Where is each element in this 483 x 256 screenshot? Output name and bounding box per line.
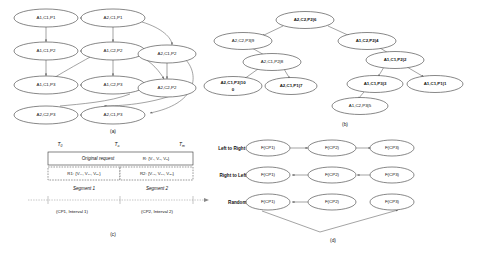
node-label: A2,C1,P1 [104, 15, 123, 20]
node-label: A1,C1,P2|2 [384, 57, 407, 62]
node-b-root[interactable]: A2,C2,P2|6 [276, 12, 334, 29]
node-label: A1,C1,P2 [37, 48, 56, 53]
figure-canvas: A1,C1,P1 A2,C1,P1 A1,C1,P2 A1,C2,P2 A2,C… [0, 0, 483, 256]
node-ltr-cp3[interactable]: F(CP3) [370, 140, 414, 156]
row-label-right-to-left: Right to Left: [219, 173, 248, 178]
r1-value: R1: {V₁₁, V₂₁, V₃₁} [67, 171, 101, 176]
node-b-r1[interactable]: A1,C2,P2|4 [338, 33, 396, 50]
node-label: A1,C1,P1 [37, 15, 56, 20]
segment-2-label: Segment 2 [146, 186, 169, 191]
panel-d-row-right-to-left: Right to Left: F(CP1) F(CP2) F(CP3) [219, 167, 414, 183]
panel-d-row-left-to-right: Left to Right : F(CP1) F(CP2) F(CP3) [218, 140, 414, 156]
node-label: A1,C1,P3|3 [364, 81, 387, 86]
node-a2c1p1[interactable]: A2,C1,P1 [81, 9, 145, 27]
time-label-t0: T0 [58, 141, 63, 148]
r2-value: R2: {V₁₂, V₂₂, V₃₂} [140, 171, 175, 176]
node-label: F(CP2) [325, 199, 340, 204]
node-a1c1p3[interactable]: A1,C1,P3 [14, 76, 78, 94]
original-request-label: Original request [82, 156, 115, 161]
node-label: A2,C1,P1|7 [280, 83, 303, 88]
node-ltr-cp1[interactable]: F(CP1) [246, 140, 290, 156]
node-rtl-cp1[interactable]: F(CP1) [246, 167, 290, 183]
panel-d: Left to Right : F(CP1) F(CP2) F(CP3) [218, 140, 414, 243]
edge-r2-r4 [407, 67, 424, 77]
edge-rnd-v-left [262, 211, 320, 232]
node-b-r4[interactable]: A1,C1,P1|1 [407, 76, 463, 93]
panel-a-edges [46, 18, 193, 115]
node-a2c1p2[interactable]: A2,C1,P2 [138, 45, 196, 63]
node-label: A2,C2,P2|6 [294, 17, 317, 22]
node-b-r3[interactable]: A1,C1,P3|3 [347, 76, 403, 93]
node-label: F(CP3) [385, 199, 400, 204]
node-label: A1,C2,P2|4 [356, 38, 379, 43]
original-request-box [48, 152, 193, 165]
node-label: A1,C2,P3 [104, 82, 123, 87]
node-rnd-cp3[interactable]: F(CP3) [370, 194, 414, 210]
panel-c-caption: (c) [110, 232, 116, 237]
edge-root-r1 [328, 26, 350, 36]
node-label: A1,C1,P3 [37, 82, 56, 87]
node-rnd-cp2[interactable]: F(CP2) [308, 194, 356, 210]
panel-c: T0 Ta Tm Original request R: {V₁, V₂, V₃… [28, 141, 209, 237]
panel-d-row-random: Random: F(CP1) F(CP2) F(CP3) [228, 194, 414, 232]
node-b-r2[interactable]: A1,C1,P2|2 [366, 52, 424, 69]
original-request-value: R: {V₁, V₂, V₃} [143, 156, 170, 161]
node-label: A1,C2,P3|5 [349, 103, 372, 108]
panel-a-caption: (a) [110, 129, 116, 134]
edge-rnd-v-right [320, 210, 398, 232]
segment-1-label: Segment 1 [73, 186, 96, 191]
node-a2c1p3[interactable]: A2,C1,P3 [81, 106, 145, 124]
node-b-l2[interactable]: A2,C1,P2|8 [243, 54, 301, 71]
timeline-arrow-icon [204, 198, 209, 202]
node-a2c2p3[interactable]: A2,C2,P3 [14, 106, 78, 124]
row-label-left-to-right: Left to Right : [218, 146, 248, 151]
node-label: F(CP1) [261, 172, 276, 177]
panel-b-caption: (b) [342, 122, 348, 127]
node-label: F(CP3) [385, 172, 400, 177]
edge-root-l1 [262, 26, 283, 36]
node-a1c1p2[interactable]: A1,C1,P2 [14, 42, 78, 60]
panel-b: A2,C2,P2|6 A2,C2,P3|9 A2,C1,P2|8 A2,C1,P… [204, 12, 463, 128]
node-a1c1p1[interactable]: A1,C1,P1 [14, 9, 78, 27]
node-label: A2,C2,P2 [158, 85, 177, 90]
node-a1c2p3[interactable]: A1,C2,P3 [81, 76, 145, 94]
node-rtl-cp3[interactable]: F(CP3) [370, 167, 414, 183]
node-rtl-cp2[interactable]: F(CP2) [308, 167, 356, 183]
edge-a1c2p3-lower [60, 94, 130, 106]
panel-c-time-axis-labels: T0 Ta Tm [58, 141, 186, 148]
node-label: A2,C1,P3|10 [220, 80, 246, 85]
node-label: A1,C2,P2 [104, 48, 123, 53]
node-b-l3[interactable]: A2,C1,P3|10 0 [204, 77, 262, 96]
cp2-interval-label: (CP2, Interval 2) [141, 209, 174, 214]
panel-b-nodes: A2,C2,P2|6 A2,C2,P3|9 A2,C1,P2|8 A2,C1,P… [204, 12, 463, 115]
node-label: A2,C2,P3 [37, 112, 56, 117]
node-ltr-cp2[interactable]: F(CP2) [308, 140, 356, 156]
node-label: A2,C1,P2 [158, 51, 177, 56]
panel-d-caption: (d) [330, 238, 336, 243]
node-b-l1[interactable]: A2,C2,P3|9 [214, 33, 272, 50]
node-b-r5[interactable]: A1,C2,P3|5 [332, 98, 388, 115]
cp1-interval-label: (CP1, Interval 1) [56, 209, 89, 214]
edge-a2c1p1-a2c1p2 [142, 22, 172, 45]
node-label: F(CP3) [385, 145, 400, 150]
node-label: A2,C1,P2|8 [261, 59, 284, 64]
node-b-l4[interactable]: A2,C1,P1|7 [265, 78, 317, 95]
node-a2c2p2[interactable]: A2,C2,P2 [138, 79, 196, 97]
panel-a: A1,C1,P1 A2,C1,P1 A1,C1,P2 A1,C2,P2 A2,C… [14, 9, 196, 134]
node-label: F(CP1) [261, 145, 276, 150]
figure-svg: A1,C1,P1 A2,C1,P1 A1,C1,P2 A1,C2,P2 A2,C… [0, 0, 483, 256]
node-a1c2p2[interactable]: A1,C2,P2 [81, 42, 145, 60]
node-label: F(CP2) [325, 172, 340, 177]
node-label: A2,C2,P3|9 [232, 38, 255, 43]
time-label-tm: Tm [179, 141, 185, 148]
time-label-ta: Ta [115, 141, 120, 148]
node-label: F(CP2) [325, 145, 340, 150]
node-rnd-cp1[interactable]: F(CP1) [246, 194, 290, 210]
node-label: F(CP1) [261, 199, 276, 204]
node-label: A1,C1,P1|1 [424, 81, 447, 86]
node-label: A2,C1,P3 [104, 112, 123, 117]
panel-a-nodes: A1,C1,P1 A2,C1,P1 A1,C1,P2 A1,C2,P2 A2,C… [14, 9, 196, 124]
row-label-random: Random: [228, 200, 248, 205]
